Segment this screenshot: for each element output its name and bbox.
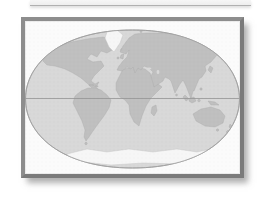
grain-texture-overlay xyxy=(25,21,240,174)
map-picture-frame xyxy=(21,17,244,178)
screenshot-canvas xyxy=(0,0,267,198)
world-map-image xyxy=(25,21,240,174)
cropped-panel-bottom-edge xyxy=(30,0,251,6)
